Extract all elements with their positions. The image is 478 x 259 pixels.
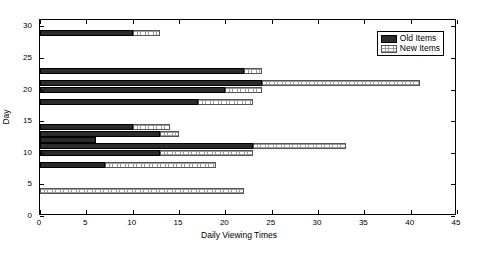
x-tick-label-5: 5 [83, 218, 87, 227]
x-tick-5 [86, 210, 87, 214]
x-tick-20 [225, 210, 226, 214]
x-tick-45 [457, 20, 458, 24]
bar-segment-new [133, 30, 161, 36]
chart-figure: Old Items New Items 05101520253035404505… [0, 0, 478, 259]
x-tick-0 [40, 20, 41, 24]
x-tick-10 [133, 20, 134, 24]
x-tick-label-35: 35 [359, 218, 368, 227]
bar-day-8 [40, 162, 216, 168]
bar-day-20 [40, 87, 262, 93]
x-tick-label-0: 0 [37, 218, 41, 227]
y-tick-30 [451, 26, 455, 27]
legend-label-new-items: New Items [400, 44, 440, 53]
x-tick-label-15: 15 [174, 218, 183, 227]
bar-day-12 [40, 137, 96, 143]
y-tick-0 [451, 216, 455, 217]
bar-segment-new [198, 99, 254, 105]
x-tick-label-10: 10 [127, 218, 136, 227]
x-tick-45 [457, 210, 458, 214]
x-tick-15 [179, 210, 180, 214]
bar-segment-new [160, 150, 253, 156]
y-tick-10 [451, 153, 455, 154]
x-tick-25 [272, 210, 273, 214]
bar-segment-new [262, 80, 420, 86]
bar-day-4 [40, 188, 244, 194]
y-tick-25 [40, 58, 44, 59]
bar-segment-new [160, 131, 179, 137]
x-tick-label-20: 20 [220, 218, 229, 227]
bar-day-11 [40, 143, 346, 149]
x-tick-0 [40, 210, 41, 214]
x-axis-title: Daily Viewing Times [0, 230, 478, 240]
x-tick-label-45: 45 [452, 218, 461, 227]
y-tick-5 [451, 184, 455, 185]
bar-day-10 [40, 150, 253, 156]
bar-day-29 [40, 30, 160, 36]
x-tick-label-30: 30 [313, 218, 322, 227]
legend-label-old-items: Old Items [400, 34, 436, 43]
bar-segment-old [40, 124, 133, 130]
legend-item-new-items: New Items [381, 44, 440, 53]
bar-segment-new [40, 188, 244, 194]
y-tick-5 [40, 184, 44, 185]
bar-segment-old [40, 87, 225, 93]
x-tick-35 [364, 210, 365, 214]
x-tick-40 [411, 210, 412, 214]
y-tick-10 [40, 153, 44, 154]
bar-segment-old [40, 30, 133, 36]
bar-day-23 [40, 68, 262, 74]
y-tick-30 [40, 26, 44, 27]
x-tick-40 [411, 20, 412, 24]
x-tick-30 [318, 20, 319, 24]
legend-item-old-items: Old Items [381, 34, 440, 43]
bar-segment-old [40, 162, 105, 168]
x-tick-15 [179, 20, 180, 24]
chart-legend: Old Items New Items [377, 31, 444, 56]
x-tick-label-25: 25 [266, 218, 275, 227]
legend-swatch-new-items [381, 45, 397, 53]
plot-area: Old Items New Items [39, 19, 456, 215]
x-tick-25 [272, 20, 273, 24]
y-tick-25 [451, 58, 455, 59]
bar-segment-new [105, 162, 216, 168]
bar-segment-old [40, 131, 160, 137]
y-tick-20 [40, 90, 44, 91]
x-tick-5 [86, 20, 87, 24]
bar-segment-new [133, 124, 170, 130]
bar-segment-old [40, 99, 198, 105]
x-tick-label-40: 40 [405, 218, 414, 227]
y-tick-15 [40, 121, 44, 122]
bar-day-14 [40, 124, 170, 130]
y-tick-20 [451, 90, 455, 91]
x-tick-30 [318, 210, 319, 214]
bar-segment-new [253, 143, 346, 149]
bar-day-21 [40, 80, 420, 86]
x-tick-10 [133, 210, 134, 214]
bar-segment-new [244, 68, 263, 74]
bar-segment-old [40, 80, 262, 86]
y-tick-0 [40, 216, 44, 217]
y-tick-15 [451, 121, 455, 122]
legend-swatch-old-items [381, 35, 397, 43]
bar-day-18 [40, 99, 253, 105]
bar-segment-old [40, 137, 96, 143]
bar-segment-old [40, 143, 253, 149]
bar-segment-old [40, 150, 160, 156]
bar-segment-new [225, 87, 262, 93]
bar-day-13 [40, 131, 179, 137]
x-tick-35 [364, 20, 365, 24]
y-axis-title: Day [1, 109, 11, 124]
x-tick-20 [225, 20, 226, 24]
bar-segment-old [40, 68, 244, 74]
